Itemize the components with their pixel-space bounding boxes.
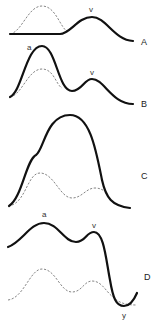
panel-d-y-label: y [122,311,126,320]
venous-pulse-diagram: v A a v B C a v y D [0,0,156,320]
panel-a-waveform [10,17,133,41]
panel-a-v-label: v [89,5,93,14]
panel-c-waveform [9,115,130,208]
panel-c-normal-curve [12,173,106,205]
panel-d-normal-curve [8,269,137,305]
panel-a-normal-curve [10,6,68,34]
panel-b: a v B [10,43,147,109]
panel-c: C [9,115,148,208]
panel-b-a-label: a [27,43,32,52]
panel-d-a-label: a [42,210,47,219]
panel-a-label: A [141,37,147,47]
panel-b-normal-curve [10,69,62,97]
panel-d-waveform [8,223,137,306]
panel-b-v-label: v [90,68,94,77]
panel-d-label: D [144,272,151,282]
panel-c-label: C [141,171,148,181]
panel-d-v-label: v [92,221,96,230]
panel-d: a v y D [8,210,151,320]
panel-b-waveform [10,46,133,104]
panel-b-label: B [141,99,147,109]
panel-a: v A [10,5,147,47]
